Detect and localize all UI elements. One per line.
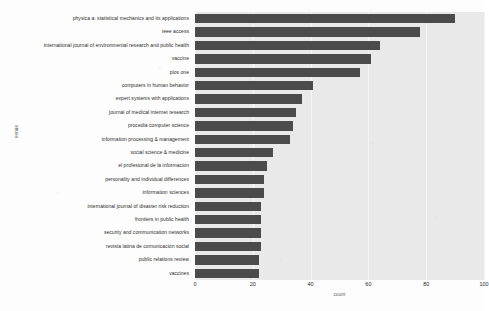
x-tick-label: 40 (308, 281, 314, 287)
gridline (484, 12, 485, 280)
bar (195, 121, 293, 130)
bar (195, 54, 371, 63)
bar-row (195, 39, 484, 52)
bar (195, 269, 259, 278)
bar-row (195, 267, 484, 280)
bar-row (195, 119, 484, 132)
bar (195, 215, 261, 224)
bar-row (195, 52, 484, 65)
x-tick-label: 0 (193, 281, 196, 287)
y-tick-label: journal of medical internet research (109, 106, 189, 119)
bar (195, 255, 259, 264)
y-tick-label: vaccines (169, 267, 189, 280)
bar-row (195, 106, 484, 119)
y-tick-label: international journal of disaster risk r… (87, 200, 189, 213)
bar-row (195, 240, 484, 253)
y-tick-label: frontiers in public health (135, 213, 189, 226)
x-axis-label: count (195, 292, 484, 297)
bar (195, 94, 302, 103)
y-tick-label: vaccine (172, 52, 189, 65)
bar-row (195, 133, 484, 146)
x-tick-label: 80 (423, 281, 429, 287)
bar (195, 108, 296, 117)
y-tick-label: personality and individual differences (105, 173, 189, 186)
bar (195, 81, 313, 90)
bar (195, 161, 267, 170)
bar-row (195, 253, 484, 266)
bar (195, 175, 264, 184)
bar-row (195, 12, 484, 25)
bar-row (195, 92, 484, 105)
bar-row (195, 25, 484, 38)
bar-row (195, 200, 484, 213)
bar (195, 242, 261, 251)
y-tick-label: revista latina de comunicacion social (106, 240, 189, 253)
x-tick-label: 20 (250, 281, 256, 287)
y-tick-label: ieee access (162, 25, 189, 38)
bar (195, 135, 290, 144)
bar (195, 41, 380, 50)
y-tick-label: computers in human behavior (122, 79, 189, 92)
bar-row (195, 186, 484, 199)
y-tick-label: public relations review (139, 253, 189, 266)
plot-area (195, 12, 484, 280)
bar-series (195, 12, 484, 280)
bar-row (195, 159, 484, 172)
x-tick-label: 60 (365, 281, 371, 287)
bar (195, 188, 264, 197)
bar (195, 27, 420, 36)
bar-row (195, 79, 484, 92)
y-tick-label: plos one (170, 66, 189, 79)
y-tick-label: social science & medicine (131, 146, 190, 159)
bar-row (195, 66, 484, 79)
bar-row (195, 213, 484, 226)
bar (195, 228, 261, 237)
bar-row (195, 146, 484, 159)
y-tick-label: international journal of environmental r… (44, 39, 189, 52)
bar (195, 68, 360, 77)
y-tick-label: physica a: statistical mechanics and its… (73, 12, 189, 25)
chart-title-remnant (0, 0, 484, 9)
x-tick-label: 100 (479, 281, 488, 287)
y-axis-tick-labels: physica a: statistical mechanics and its… (0, 12, 192, 280)
bar (195, 148, 273, 157)
y-tick-label: security and communication networks (104, 226, 189, 239)
bar (195, 202, 261, 211)
y-tick-label: information sciences (142, 186, 189, 199)
y-tick-label: expert systems with applications (116, 92, 189, 105)
y-tick-label: el profesional de la informacion (118, 159, 189, 172)
y-tick-label: information processing & management (102, 133, 189, 146)
y-tick-label: procedia computer science (128, 119, 189, 132)
bar-row (195, 226, 484, 239)
bar-row (195, 173, 484, 186)
bar (195, 14, 455, 23)
